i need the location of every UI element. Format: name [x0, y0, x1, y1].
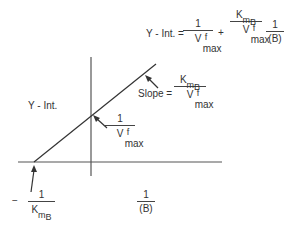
term1-numerator: 1: [183, 18, 213, 30]
term1-v: V: [195, 33, 202, 44]
yint-num: 1: [105, 113, 135, 125]
y-int-label: Y - Int.: [28, 101, 57, 111]
yint-v: V: [117, 128, 124, 139]
term1-f: f: [205, 32, 208, 42]
slope-fraction: KmB Vfmax: [174, 74, 206, 108]
equation-lhs: Y - Int. =: [146, 29, 184, 39]
xaxis-den: (B): [137, 202, 155, 214]
term2-v: V: [243, 24, 250, 35]
slope-arrow-icon: [145, 75, 158, 88]
slope-k: K: [180, 74, 187, 85]
equation-term1: 1 Vfmax: [183, 18, 213, 52]
term1-max: max: [203, 43, 222, 54]
term2-k: K: [236, 9, 243, 20]
x-intercept-arrow-icon: [31, 165, 37, 192]
x-axis-label: 1 (B): [137, 189, 155, 214]
yint-max: max: [125, 138, 144, 149]
term3-num: 1: [266, 19, 284, 31]
y-intercept-fraction: 1 Vfmax: [105, 113, 135, 147]
x-intercept-sign: −: [12, 196, 18, 206]
yint-f: f: [127, 127, 130, 137]
xint-m: m: [38, 210, 46, 220]
x-intercept-fraction: 1 KmB: [28, 189, 55, 215]
slope-v: V: [187, 89, 194, 100]
equation-term3: 1 (B): [266, 19, 284, 44]
equation-term2: KmB Vfmax: [230, 9, 262, 43]
term2-f: f: [253, 23, 256, 33]
equation-plus: +: [218, 28, 224, 38]
term3-den: (B): [266, 32, 284, 44]
xint-b: B: [46, 212, 52, 222]
xaxis-num: 1: [137, 189, 155, 201]
xint-num: 1: [28, 189, 55, 201]
slope-label: Slope =: [138, 89, 172, 99]
slope-f: f: [197, 88, 200, 98]
slope-max: max: [195, 99, 214, 110]
